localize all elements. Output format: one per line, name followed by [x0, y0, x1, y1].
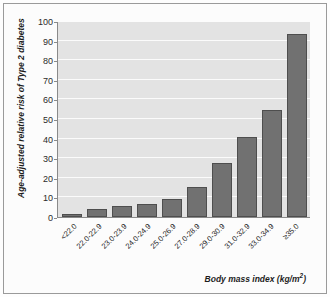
- y-axis-tick-mark: [54, 159, 57, 160]
- y-axis-tick-mark: [54, 198, 57, 199]
- y-axis-tick-label: 60: [29, 96, 53, 105]
- bar-series: [58, 22, 310, 217]
- bar: [287, 34, 307, 217]
- y-axis-title: Age-adjusted relative risk of Type 2 dia…: [16, 20, 26, 198]
- y-axis-tick-mark: [54, 81, 57, 82]
- y-axis-ticks: 0102030405060708090100: [27, 22, 53, 218]
- x-axis-title: Body mass index (kg/m2): [150, 272, 320, 284]
- y-axis-tick-label: 100: [29, 18, 53, 27]
- y-axis-tick-mark: [54, 100, 57, 101]
- y-axis-tick-mark: [54, 120, 57, 121]
- y-axis-tick-label: 90: [29, 38, 53, 47]
- x-axis-ticks: <22.022.0-22.923.0-23.924.0-24.925.0-26.…: [57, 219, 310, 265]
- y-axis-tick-label: 20: [29, 175, 53, 184]
- y-axis-tick-mark: [54, 140, 57, 141]
- y-axis-tick-mark: [54, 42, 57, 43]
- y-axis-tick-label: 10: [29, 194, 53, 203]
- x-axis-title-text: Body mass index (kg/m2): [205, 274, 306, 284]
- figure-container: 0102030405060708090100 Age-adjusted rela…: [0, 0, 330, 297]
- y-axis-tick-label: 80: [29, 57, 53, 66]
- x-axis-tick-label-text: ≥35.0: [281, 221, 301, 241]
- plot-area: [57, 22, 310, 218]
- y-axis-tick-mark: [54, 61, 57, 62]
- y-axis-tick-mark: [54, 179, 57, 180]
- y-axis-tick-label: 0: [29, 214, 53, 223]
- x-axis-tick-label-text: <22.0: [59, 221, 80, 242]
- y-axis-tick-label: 40: [29, 136, 53, 145]
- y-axis-tick-label: 30: [29, 155, 53, 164]
- y-axis-tick-label: 70: [29, 77, 53, 86]
- y-axis-tick-mark: [54, 22, 57, 23]
- y-axis-tick-label: 50: [29, 116, 53, 125]
